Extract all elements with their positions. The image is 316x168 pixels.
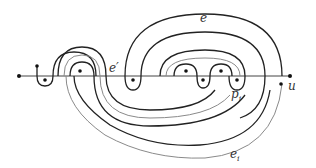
label-e-i: ei xyxy=(230,148,240,163)
curve-lower-dark xyxy=(74,76,270,145)
right-endpoint-dot xyxy=(288,74,292,78)
curve-upper-3 xyxy=(160,50,245,90)
puncture-dot xyxy=(201,78,205,82)
p-i-dot xyxy=(235,78,239,82)
label-e: e xyxy=(200,12,207,24)
puncture-dot xyxy=(43,78,47,82)
curve-upper-inner-u xyxy=(125,76,141,90)
label-p-i: pi xyxy=(231,88,241,103)
diagram-canvas xyxy=(0,0,316,168)
left-endpoint-dot xyxy=(17,74,21,78)
curve-e-prime xyxy=(58,47,215,110)
label-e-i-sub: i xyxy=(237,154,240,163)
label-p-sub: i xyxy=(239,94,242,103)
puncture-dot xyxy=(219,69,223,73)
puncture-dot xyxy=(78,69,82,73)
puncture-dot xyxy=(35,64,39,68)
puncture-dot xyxy=(184,69,188,73)
puncture-dot xyxy=(131,78,135,82)
label-p-base: p xyxy=(231,87,239,101)
label-u: u xyxy=(288,80,296,92)
u-dot xyxy=(279,82,283,86)
label-e-prime: e′ xyxy=(109,62,119,74)
